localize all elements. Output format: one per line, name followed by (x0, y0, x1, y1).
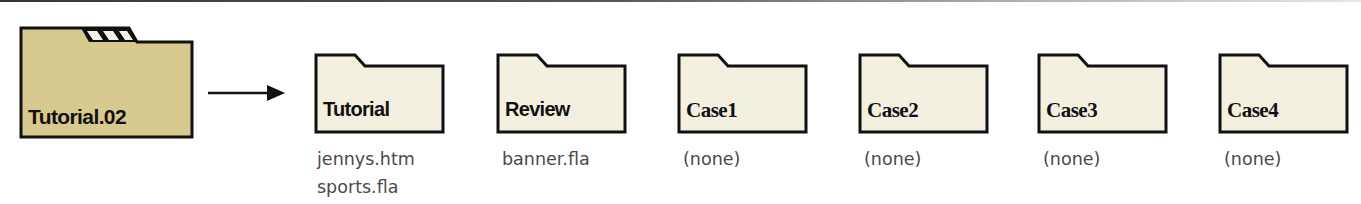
file-name: banner.fla (502, 145, 590, 173)
subfolder-contents: (none) (1224, 145, 1281, 173)
subfolder-contents: (none) (1043, 145, 1100, 173)
subfolder-case3: Case3 (1037, 53, 1169, 135)
subfolder-review: Review (496, 53, 628, 135)
subfolder-label: Case3 (1046, 98, 1097, 123)
subfolder-label: Case4 (1227, 98, 1278, 123)
file-name: (none) (1224, 145, 1281, 173)
subfolder-case4: Case4 (1218, 53, 1350, 135)
subfolder-label: Case1 (686, 98, 737, 123)
file-name: jennys.htm (317, 145, 415, 173)
subfolder-tutorial: Tutorial (314, 53, 446, 135)
subfolder-contents: banner.fla (502, 145, 590, 173)
folder-icon (496, 53, 628, 135)
subfolder-label: Case2 (867, 98, 918, 123)
folder-icon (314, 53, 446, 135)
root-folder-label: Tutorial.02 (28, 105, 126, 129)
subfolder-contents: (none) (864, 145, 921, 173)
subfolder-contents: jennys.htm sports.fla (317, 145, 415, 201)
subfolder-label: Review (505, 98, 570, 121)
root-folder: Tutorial.02 (19, 26, 195, 140)
file-name: sports.fla (317, 173, 415, 201)
top-border-line (0, 0, 1361, 2)
subfolder-label: Tutorial (323, 98, 389, 121)
subfolder-case2: Case2 (858, 53, 990, 135)
file-name: (none) (683, 145, 740, 173)
file-name: (none) (1043, 145, 1100, 173)
file-name: (none) (864, 145, 921, 173)
subfolder-contents: (none) (683, 145, 740, 173)
subfolder-case1: Case1 (677, 53, 809, 135)
arrow-right-icon (207, 84, 287, 102)
